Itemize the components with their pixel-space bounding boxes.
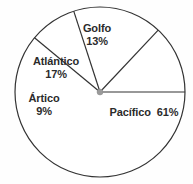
pie-label-atlantico-name: Atlántico (33, 55, 79, 68)
pie-label-golfo-name: Golfo (83, 22, 111, 35)
pie-label-golfo: Golfo 13% (83, 22, 111, 48)
pie-center-hub (97, 89, 103, 95)
pie-label-golfo-percent: 13% (83, 35, 111, 48)
pie-label-pacifico-percent: 61% (157, 106, 179, 118)
pie-label-atlantico-percent: 17% (33, 68, 79, 81)
pie-label-pacifico: Pacífico 61% (109, 106, 178, 119)
pie-label-artico: Ártico 9% (28, 92, 59, 118)
pie-label-artico-name: Ártico (28, 92, 59, 105)
pie-label-atlantico: Atlántico 17% (33, 55, 79, 81)
pie-label-artico-percent: 9% (28, 105, 59, 118)
pie-chart: Golfo 13% Pacífico 61% Ártico 9% Atlánti… (0, 0, 193, 184)
pie-label-pacifico-name: Pacífico (109, 106, 150, 118)
